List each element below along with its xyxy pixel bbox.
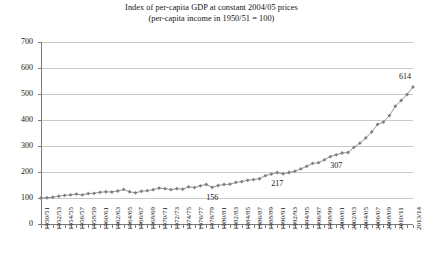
data-point-marker xyxy=(258,177,262,181)
data-point-marker xyxy=(275,171,279,175)
data-point-marker xyxy=(39,196,43,200)
data-point-marker xyxy=(334,153,338,157)
data-point-marker xyxy=(311,162,315,166)
series-markers xyxy=(39,85,415,200)
data-point-marker xyxy=(181,187,185,191)
data-point-marker xyxy=(63,194,67,198)
data-point-marker xyxy=(169,188,173,192)
data-point-marker xyxy=(263,174,267,178)
data-point-marker xyxy=(75,192,79,196)
data-point-marker xyxy=(187,185,191,189)
data-point-marker xyxy=(287,171,291,175)
data-point-marker xyxy=(269,172,273,176)
data-point-marker xyxy=(305,164,309,168)
data-point-marker xyxy=(80,193,84,197)
series-line xyxy=(41,87,413,198)
data-point-marker xyxy=(222,183,226,187)
data-point-marker xyxy=(246,178,250,182)
data-point-marker xyxy=(193,186,197,190)
data-point-marker xyxy=(204,183,208,187)
data-series-layer xyxy=(0,0,423,274)
data-point-marker xyxy=(293,169,297,173)
data-point-marker xyxy=(86,192,90,196)
data-point-marker xyxy=(51,195,55,199)
data-point-marker xyxy=(317,161,321,165)
data-point-marker xyxy=(252,178,256,182)
data-point-marker xyxy=(157,186,161,190)
data-point-marker xyxy=(122,188,126,192)
data-point-marker xyxy=(210,185,214,189)
data-point-marker xyxy=(69,193,73,197)
data-point-marker xyxy=(240,180,244,184)
data-point-marker xyxy=(128,190,132,194)
data-point-marker xyxy=(145,189,149,193)
data-point-marker xyxy=(228,182,232,186)
data-point-marker xyxy=(281,172,285,176)
data-point-marker xyxy=(57,194,61,198)
data-point-marker xyxy=(104,190,108,194)
data-point-marker xyxy=(216,184,220,188)
chart-container: Index of per-capita GDP at constant 2004… xyxy=(0,0,423,274)
data-point-label: 217 xyxy=(271,180,283,188)
data-point-marker xyxy=(163,187,167,191)
data-point-label: 156 xyxy=(206,194,218,202)
data-point-marker xyxy=(110,190,114,194)
data-point-label: 614 xyxy=(399,73,411,81)
data-point-marker xyxy=(151,188,155,192)
data-point-marker xyxy=(299,167,303,171)
data-point-label: 307 xyxy=(330,162,342,170)
data-point-marker xyxy=(328,155,332,159)
data-point-marker xyxy=(134,191,138,195)
data-point-marker xyxy=(234,181,238,185)
data-point-marker xyxy=(139,189,143,193)
data-point-marker xyxy=(92,191,96,195)
data-point-marker xyxy=(340,151,344,155)
data-point-marker xyxy=(175,187,179,191)
data-point-marker xyxy=(45,196,49,200)
data-point-marker xyxy=(323,158,327,162)
data-point-marker xyxy=(199,184,203,188)
data-point-marker xyxy=(116,189,120,193)
data-point-marker xyxy=(98,190,102,194)
